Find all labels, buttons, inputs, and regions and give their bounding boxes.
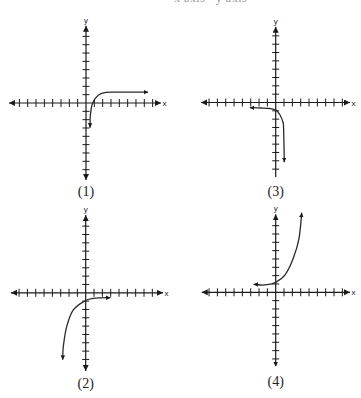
graph-1: xy(1): [9, 16, 167, 200]
graph-caption: (1): [78, 184, 95, 200]
graph-4: xy(4): [202, 204, 356, 390]
function-curve: [250, 108, 284, 162]
x-axis-label: x: [165, 289, 169, 298]
function-curve: [90, 92, 148, 127]
x-axis-label: x: [162, 99, 166, 108]
graph-3: xy(3): [201, 17, 356, 200]
graph-2: xy(2): [11, 205, 169, 392]
x-axis-label: x: [352, 99, 356, 108]
y-axis-label: y: [84, 205, 88, 214]
x-axis-label: x: [352, 288, 356, 297]
graph-caption: (3): [268, 184, 285, 200]
y-axis-label: y: [84, 16, 88, 25]
function-curve: [63, 298, 110, 360]
graph-caption: (4): [268, 374, 285, 390]
function-curve: [254, 213, 302, 285]
y-axis-label: y: [274, 17, 278, 26]
graph-caption: (2): [78, 376, 95, 392]
y-axis-label: y: [274, 204, 278, 213]
graphs-figure: xy(1)xy(2)xy(3)xy(4): [0, 0, 361, 398]
